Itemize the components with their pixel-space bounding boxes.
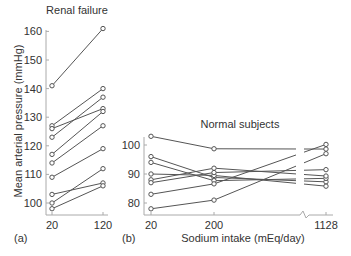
data-point [101,166,105,170]
panel-label-a: (a) [14,232,27,244]
data-point [101,146,105,150]
x-tick-label: 20 [145,219,157,231]
series-line [52,89,103,126]
x-axis-b-with-break [144,211,333,218]
data-point [324,152,328,156]
y-tick-label: 160 [24,25,42,37]
panel-label-b: (b) [122,232,135,244]
data-point [101,86,105,90]
series-line [304,184,326,186]
data-point [50,126,54,130]
data-point [149,134,153,138]
data-point [149,154,153,158]
data-point [50,161,54,165]
figure: 10011012013014015016020120Renal failureM… [0,0,351,256]
x-axis-title: Sodium intake (mEq/day) [181,232,305,244]
y-tick-label: 150 [24,54,42,66]
x-tick-label: 200 [205,219,223,231]
y-tick-label: 80 [128,197,140,209]
data-point [212,170,216,174]
series-line [304,154,326,163]
y-tick-label: 110 [24,168,42,180]
data-point [50,207,54,211]
chart-title-b: Normal subjects [201,118,280,130]
data-point [101,26,105,30]
data-point [149,192,153,196]
data-point [101,95,105,99]
data-point [101,184,105,188]
data-point [324,167,328,171]
data-point [101,109,105,113]
data-point [50,192,54,196]
y-axis-title: Mean arterial pressure (mmHg) [12,45,24,198]
series-line [304,181,326,182]
data-point [149,181,153,185]
data-point [212,182,216,186]
series-line [52,169,103,203]
series-line [304,170,326,171]
data-point [149,207,153,211]
data-point [149,172,153,176]
data-point [324,147,328,151]
y-tick-label: 120 [24,140,42,152]
data-point [50,84,54,88]
data-point [149,160,153,164]
series-line [151,136,214,148]
data-point [324,174,328,178]
y-tick-label: 100 [122,139,140,151]
data-point [324,184,328,188]
chart-title-a: Renal failure [46,4,108,16]
series-line [52,109,103,129]
data-point [50,152,54,156]
data-point [50,201,54,205]
data-point [101,124,105,128]
series-line [52,111,103,154]
series-line [151,200,214,209]
series-line [304,144,326,152]
x-tick-label: 1128 [314,219,338,231]
y-tick-label: 130 [24,111,42,123]
data-point [212,166,216,170]
series-line [151,184,214,194]
series-line [52,149,103,178]
series-line [52,29,103,86]
data-point [50,175,54,179]
y-tick-label: 100 [24,197,42,209]
data-point [212,198,216,202]
y-tick-label: 90 [128,168,140,180]
y-tick-label: 140 [24,83,42,95]
x-tick-label: 120 [94,219,112,231]
data-point [212,147,216,151]
data-point [324,142,328,146]
x-tick-label: 20 [46,219,58,231]
data-point [50,135,54,139]
series-line [304,174,326,176]
series-line [52,183,103,194]
